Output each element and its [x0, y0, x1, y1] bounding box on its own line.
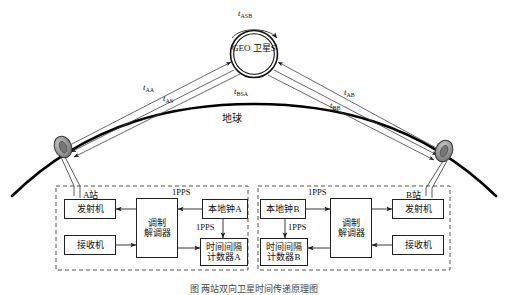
path-label-t-bb: tBB — [330, 100, 341, 110]
station-a-modem-line2: 解调器 — [144, 228, 171, 238]
signal-lines-left — [68, 62, 240, 157]
station-b-interval-counter: 时间间隔 计数器B — [260, 238, 308, 266]
station-b-modem-line1: 调制 — [342, 218, 360, 228]
station-b-transmitter: 发射机 — [392, 199, 444, 219]
antenna-feed-lines — [61, 157, 447, 198]
station-a-modem: 调制 解调器 — [136, 198, 178, 258]
station-a-pps-mid: 1PPS — [196, 222, 214, 232]
station-b-local-clock-label: 本地钟B — [266, 204, 299, 214]
station-a-receiver-label: 接收机 — [77, 240, 104, 250]
station-a-local-clock-label: 本地钟A — [208, 204, 242, 214]
station-a-counter-line1: 时间间隔 — [206, 242, 242, 252]
signal-lines-right — [268, 62, 440, 160]
path-label-t-ab: tAB — [344, 87, 355, 97]
geo-satellite-line2: 卫星S — [253, 43, 276, 53]
station-b-local-clock: 本地钟B — [260, 199, 306, 219]
figure-caption: 图 两站双向卫星时间传递原理图 — [0, 282, 508, 295]
station-b-counter-line1: 时间间隔 — [266, 242, 302, 252]
path-sub-t-bsa: BSA — [237, 91, 249, 97]
station-a-modem-line1: 调制 — [148, 218, 166, 228]
station-a-pps-top: 1PPS — [172, 187, 190, 197]
station-b-receiver-label: 接收机 — [405, 240, 432, 250]
path-label-t-bsa: tBSA — [234, 86, 248, 96]
station-a-transmitter-label: 发射机 — [77, 204, 104, 214]
earth-arc — [12, 104, 496, 196]
station-b-pps-mid: 1PPS — [288, 222, 306, 232]
station-b-counter-line2: 计数器B — [267, 252, 300, 262]
path-sub-t-bb: BB — [333, 105, 341, 111]
path-sub-t-as: AS — [166, 98, 174, 104]
station-b-transmitter-label: 发射机 — [405, 204, 432, 214]
station-a-transmitter: 发射机 — [64, 199, 116, 219]
antenna-dish-a — [51, 134, 75, 161]
path-sub-t-asb: ASB — [241, 13, 253, 19]
station-b-modem: 调制 解调器 — [330, 198, 372, 258]
station-a-counter-line2: 计数器A — [207, 252, 241, 262]
station-b-pps-top: 1PPS — [308, 187, 326, 197]
earth-label: 地球 — [222, 110, 242, 125]
station-a-interval-counter: 时间间隔 计数器A — [200, 238, 248, 266]
path-sub-t-aa: AA — [146, 87, 155, 93]
station-a-local-clock: 本地钟A — [202, 199, 248, 219]
path-sub-t-ab: AB — [347, 92, 355, 98]
station-b-receiver: 接收机 — [392, 235, 444, 255]
geo-satellite-node — [231, 31, 278, 78]
geo-satellite-label: GEO 卫星S — [232, 44, 276, 54]
geo-satellite-line1: GEO — [232, 43, 251, 53]
path-label-t-aa: tAA — [143, 82, 154, 92]
path-label-t-asb: tASB — [238, 8, 252, 18]
path-label-t-as: tAS — [163, 93, 173, 103]
station-a-receiver: 接收机 — [64, 235, 116, 255]
station-b-modem-line2: 解调器 — [338, 228, 365, 238]
